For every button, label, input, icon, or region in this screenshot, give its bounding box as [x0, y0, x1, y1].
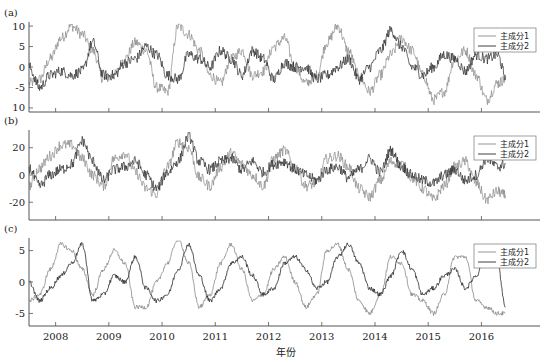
y-tick-label: 0 [19, 277, 25, 288]
panel-label: (b) [4, 115, 18, 126]
x-tick-label: 2011 [203, 331, 228, 342]
y-tick-label: 0 [19, 170, 25, 181]
panel-b: 200-20(b)主成分1主成分2 [4, 115, 540, 220]
x-tick-label: 2010 [149, 331, 174, 342]
x-axis-title: 年份 [276, 346, 296, 358]
y-tick-label: -20 [9, 197, 25, 208]
panel-a: 1050-510(a)主成分1主成分2 [4, 7, 540, 113]
series-line-2 [29, 26, 505, 91]
panel-label: (c) [4, 223, 18, 234]
x-tick-label: 2013 [309, 331, 334, 342]
legend: 主成分1主成分2 [474, 136, 536, 160]
series-line-1 [29, 241, 505, 316]
y-tick-label: 0 [19, 62, 25, 73]
x-tick-label: 2009 [96, 331, 121, 342]
y-tick-label: 5 [19, 41, 25, 52]
panel-label: (a) [4, 7, 18, 18]
x-tick-label: 2016 [469, 331, 494, 342]
y-tick-label: 5 [19, 245, 25, 256]
y-tick-label: 10 [12, 102, 25, 113]
y-tick-label: -5 [15, 308, 25, 319]
y-tick-label: -5 [15, 82, 25, 93]
chart-figure: 1050-510(a)主成分1主成分2200-20(b)主成分1主成分250-5… [0, 0, 549, 363]
legend-label: 主成分1 [500, 31, 529, 41]
panel-c: 50-5200820092010201120122013201420152016… [4, 223, 540, 342]
legend-label: 主成分2 [500, 257, 529, 267]
legend: 主成分1主成分2 [474, 28, 536, 52]
legend-label: 主成分1 [500, 139, 529, 149]
legend-label: 主成分1 [500, 247, 529, 257]
legend-label: 主成分2 [500, 149, 529, 159]
y-tick-label: 20 [12, 142, 25, 153]
x-tick-label: 2015 [415, 331, 440, 342]
y-tick-label: 10 [12, 21, 25, 32]
x-tick-label: 2014 [362, 331, 387, 342]
x-tick-label: 2008 [43, 331, 68, 342]
x-tick-label: 2012 [256, 331, 281, 342]
legend: 主成分1主成分2 [474, 244, 536, 268]
legend-label: 主成分2 [500, 41, 529, 51]
